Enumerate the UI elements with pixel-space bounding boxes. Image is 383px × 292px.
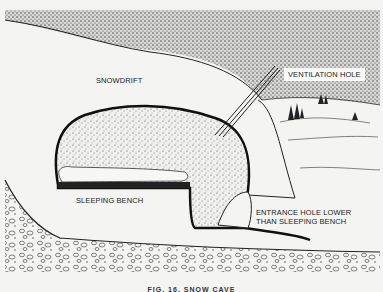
label-entrance-line1: ENTRANCE HOLE LOWER bbox=[256, 208, 351, 217]
sky-region bbox=[5, 10, 380, 105]
figure-caption: FIG. 16. SNOW CAVE bbox=[0, 286, 383, 292]
label-entrance-line2: THAN SLEEPING BENCH bbox=[256, 217, 346, 226]
sleeping-bench bbox=[58, 182, 190, 188]
snow-wall bbox=[248, 100, 295, 198]
snow-cave-diagram: SNOWDRIFT VENTILATION HOLE SLEEPING BENC… bbox=[0, 0, 383, 292]
diagram-artwork bbox=[0, 0, 383, 292]
label-sleeping-bench: SLEEPING BENCH bbox=[76, 196, 143, 205]
hill-line bbox=[300, 167, 380, 170]
entrance-tunnel bbox=[245, 228, 310, 240]
hill-line bbox=[288, 136, 378, 140]
label-ventilation-hole: VENTILATION HOLE bbox=[284, 68, 365, 81]
label-snowdrift: SNOWDRIFT bbox=[96, 76, 142, 85]
